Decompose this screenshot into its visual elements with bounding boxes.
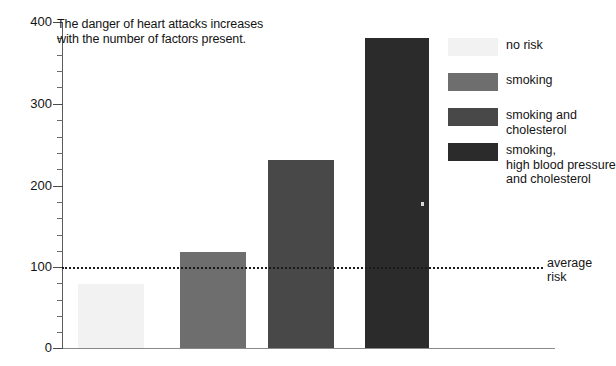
legend-item-no-risk: no risk	[448, 38, 543, 56]
average-risk-label: average risk	[547, 256, 592, 284]
y-tick-label-200: 200	[6, 179, 52, 192]
chart-title-line1: The danger of heart attacks increases	[57, 17, 263, 32]
y-minor-tick	[57, 218, 63, 219]
x-axis-line	[62, 348, 555, 349]
y-tick-200	[53, 186, 63, 187]
chart-title-line2: with the number of factors present.	[57, 32, 263, 47]
average-risk-label-line2: risk	[547, 270, 592, 284]
legend-label-smoking-cholesterol: smoking and cholesterol	[506, 108, 577, 137]
y-minor-tick	[57, 169, 63, 170]
y-tick-0	[53, 348, 63, 349]
y-minor-tick	[57, 316, 63, 317]
legend-item-smoking: smoking	[448, 73, 553, 91]
y-minor-tick	[57, 87, 63, 88]
legend-label-no-risk: no risk	[506, 38, 543, 53]
y-minor-tick	[57, 202, 63, 203]
legend-label-smoking-bp-cholesterol: smoking, high blood pressure and cholest…	[506, 143, 616, 187]
bar-smoking-bp-cholesterol	[365, 38, 429, 348]
legend-swatch-smoking-cholesterol	[448, 108, 498, 126]
legend-item-smoking-cholesterol: smoking and cholesterol	[448, 108, 577, 137]
y-tick-label-100: 100	[6, 260, 52, 273]
legend-swatch-no-risk	[448, 38, 498, 56]
y-tick-300	[53, 104, 63, 105]
y-minor-tick	[57, 120, 63, 121]
legend-item-smoking-bp-cholesterol: smoking, high blood pressure and cholest…	[448, 143, 616, 187]
y-minor-tick	[57, 300, 63, 301]
y-tick-label-0: 0	[6, 341, 52, 354]
legend-swatch-smoking	[448, 73, 498, 91]
bar-smoking-and-cholesterol	[268, 160, 334, 348]
y-minor-tick	[57, 283, 63, 284]
y-minor-tick	[57, 251, 63, 252]
y-minor-tick	[57, 137, 63, 138]
chart-canvas: 400 300 200 100 0 average risk The da	[0, 0, 616, 366]
scan-artifact-speck	[421, 202, 424, 206]
y-tick-label-300: 300	[6, 97, 52, 110]
y-tick-label-400: 400	[6, 15, 52, 28]
y-minor-tick	[57, 332, 63, 333]
chart-title: The danger of heart attacks increases wi…	[57, 17, 263, 47]
y-minor-tick	[57, 235, 63, 236]
average-risk-label-line1: average	[547, 256, 592, 270]
legend-label-smoking: smoking	[506, 73, 553, 88]
y-minor-tick	[57, 153, 63, 154]
y-minor-tick	[57, 71, 63, 72]
average-risk-line	[62, 267, 543, 269]
bar-no-risk	[78, 284, 144, 348]
y-minor-tick	[57, 55, 63, 56]
legend-swatch-smoking-bp-cholesterol	[448, 143, 498, 161]
